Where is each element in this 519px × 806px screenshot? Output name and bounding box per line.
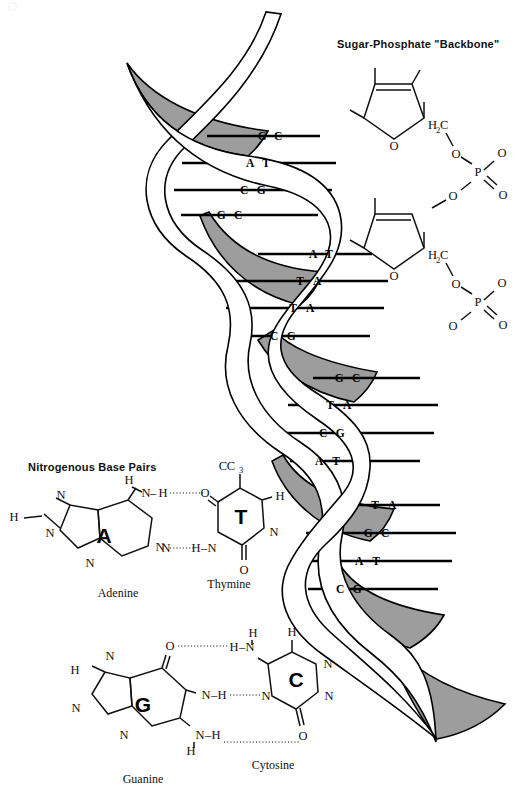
atom-label: H — [124, 473, 133, 487]
svg-text:H: H — [211, 728, 220, 742]
atom-label: N — [261, 689, 270, 703]
rung-letters: A — [355, 555, 365, 567]
atom-label: H — [248, 626, 257, 640]
atom-label: O — [497, 276, 506, 290]
atom-label: O — [165, 639, 174, 653]
svg-text:H: H — [217, 688, 226, 702]
atom-label: O — [451, 277, 460, 291]
svg-text:–: – — [149, 486, 157, 500]
rung-letters: A — [388, 499, 398, 511]
hydrogen-bonds-at — [170, 493, 203, 548]
base-letter-thymine: T — [235, 505, 248, 528]
molecule-name-adenine: Adenine — [98, 586, 139, 600]
svg-text:C: C — [219, 459, 227, 473]
atom-label: O — [389, 269, 398, 283]
sugar-phosphate-backbone: O H 2 C O P O O O — [350, 68, 508, 333]
atom-label: N — [56, 488, 65, 502]
svg-text:N: N — [245, 640, 254, 654]
atom-label: C — [440, 118, 448, 132]
svg-text:N: N — [195, 728, 204, 742]
base-letter-adenine: A — [96, 524, 111, 547]
atom-label: N — [269, 525, 278, 539]
atom-label: O — [448, 189, 457, 203]
atom-label: O — [239, 563, 248, 577]
atom-label: H — [287, 625, 296, 639]
rung-letters: C — [270, 330, 280, 342]
base-letter-cytosine: C — [288, 668, 303, 691]
atom-label: O — [389, 139, 398, 153]
rung-letters: C — [336, 583, 346, 595]
rung-letters: C — [274, 130, 284, 142]
svg-text:–: – — [200, 541, 208, 555]
rung-letters: G — [257, 184, 268, 196]
svg-text:H: H — [229, 640, 238, 654]
rung-letters: T — [372, 555, 381, 567]
atom-label: 3 — [239, 465, 243, 475]
molecule-name-thymine: Thymine — [207, 577, 250, 591]
atom-label: H — [275, 489, 284, 503]
atom-label: O — [298, 729, 307, 743]
atom-label: O — [498, 318, 507, 332]
atom-label: O — [451, 147, 460, 161]
svg-text:H: H — [158, 486, 167, 500]
base-pair-guanine-cytosine: H N N N G O N – H N – H H — [70, 625, 333, 786]
dna-figure: Sugar-Phosphate "Backbone" Nitrogenous B… — [0, 0, 519, 806]
rung-letters: G — [258, 130, 269, 142]
rung-letters: G — [217, 209, 228, 221]
atom-label: N — [85, 556, 94, 570]
rung-letters: T — [262, 157, 271, 169]
rung-letters: C — [319, 427, 329, 439]
sugar-ring-2: O — [350, 198, 424, 283]
svg-text:H: H — [191, 541, 200, 555]
rung-letters: A — [306, 302, 316, 314]
svg-text:N: N — [207, 541, 216, 555]
rung-letters: T — [371, 499, 380, 511]
svg-text:N: N — [161, 541, 170, 555]
base-pairs-panel-title: Nitrogenous Base Pairs — [28, 461, 157, 473]
rung-letters: A — [313, 275, 323, 287]
rung-letters: C — [381, 527, 391, 539]
atom-label: H — [70, 663, 79, 677]
adenine-molecule: H N N N A H N – H N — [9, 473, 167, 570]
atom-label: P — [475, 295, 482, 309]
figure-canvas: G C A T C G G C A T T A T A C G G C T — [0, 0, 519, 806]
atom-label: N — [45, 526, 54, 540]
rung-letters: A — [246, 157, 256, 169]
molecule-name-cytosine: Cytosine — [252, 758, 295, 772]
rung-letters: C — [234, 209, 244, 221]
sugar-ring-1: O — [350, 68, 424, 153]
atom-label: C — [440, 248, 448, 262]
rung-letters: A — [315, 455, 325, 467]
phosphate-group-2: H 2 C O P O O O — [428, 248, 508, 333]
atom-label: O — [497, 146, 506, 160]
rung-letters: T — [325, 248, 334, 260]
atom-label: N — [71, 701, 80, 715]
rung-letters: G — [335, 372, 346, 384]
rung-letters: C — [352, 372, 362, 384]
atom-label: H — [9, 510, 18, 524]
guanine-molecule: H N N N G O N – H N – H H — [70, 639, 226, 758]
atom-label: N — [324, 689, 333, 703]
phosphate-group-1: H 2 C O P O O O — [428, 118, 508, 208]
atom-label: O — [498, 188, 507, 202]
base-pair-adenine-thymine: H N N N A H N – H N — [9, 459, 284, 600]
atom-label: O — [200, 486, 209, 500]
rung-letters: G — [364, 527, 375, 539]
scan-artifact — [8, 2, 17, 11]
atom-label: O — [448, 319, 457, 333]
rung-letters: T — [332, 455, 341, 467]
atom-label: C — [227, 459, 235, 473]
svg-text:N: N — [201, 688, 210, 702]
atom-label: N — [105, 649, 114, 663]
rung-letters: G — [353, 583, 364, 595]
rung-letters: T — [326, 399, 335, 411]
rung-letters: T — [289, 302, 298, 314]
rung-letters: G — [287, 330, 298, 342]
rung-letters: G — [336, 427, 347, 439]
atom-label: P — [475, 165, 482, 179]
base-letter-guanine: G — [135, 693, 151, 716]
atom-label: N — [119, 728, 128, 742]
rung-letters: T — [296, 275, 305, 287]
rung-letters: A — [309, 248, 319, 260]
svg-text:–: – — [238, 640, 246, 654]
